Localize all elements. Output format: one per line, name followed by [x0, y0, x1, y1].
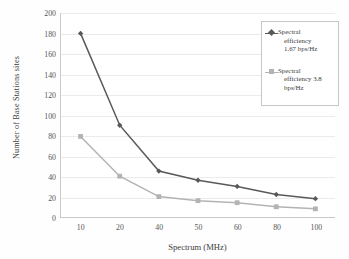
legend-label-1-line1: Spectral — [278, 67, 301, 74]
x-tick-label: 100 — [310, 223, 322, 232]
legend-marker-1 — [269, 69, 274, 74]
y-tick-label: 160 — [44, 50, 56, 59]
y-tick-label: 0 — [52, 214, 56, 223]
data-point-0-0 — [78, 31, 83, 36]
legend-label-1-line2: efficiency 3.8 — [278, 75, 322, 84]
y-tick-label: 40 — [48, 173, 56, 182]
data-point-0-6 — [313, 196, 318, 201]
y-tick-label: 80 — [48, 132, 56, 141]
data-point-1-4 — [235, 200, 240, 205]
legend-label-0-line2: efficiency — [278, 37, 317, 46]
square-marker-icon — [265, 68, 278, 77]
chart-figure: Number of Base Stations sites 0204060801… — [0, 0, 349, 259]
y-axis-title: Number of Base Stations sites — [12, 33, 21, 183]
chart-legend: Spectral efficiency 1.67 bps/Hz Spectral… — [261, 21, 339, 106]
y-tick-label: 120 — [44, 91, 56, 100]
x-tick-label: 50 — [195, 223, 203, 232]
legend-entry-spectral-efficiency-1-67[interactable]: Spectral efficiency 1.67 bps/Hz — [265, 28, 335, 54]
data-point-1-3 — [196, 198, 201, 203]
data-point-1-2 — [156, 194, 161, 199]
data-point-1-0 — [78, 134, 83, 139]
x-axis-title: Spectrum (MHz) — [60, 242, 335, 252]
data-point-1-6 — [313, 206, 318, 211]
legend-label-0: Spectral efficiency 1.67 bps/Hz — [278, 28, 317, 54]
y-tick-label: 140 — [44, 70, 56, 79]
diamond-marker-icon — [265, 29, 278, 38]
data-point-0-3 — [195, 178, 200, 183]
y-tick-label: 20 — [48, 193, 56, 202]
y-tick-label: 60 — [48, 152, 56, 161]
data-point-0-5 — [274, 192, 279, 197]
data-point-1-1 — [117, 174, 122, 179]
x-tick-label: 10 — [77, 223, 85, 232]
x-tick-label: 20 — [116, 223, 124, 232]
legend-marker-0 — [268, 29, 275, 36]
legend-label-0-line1: Spectral — [278, 28, 301, 35]
x-tick-label: 40 — [155, 223, 163, 232]
x-tick-label: 80 — [273, 223, 281, 232]
legend-label-0-line3: 1.67 bps/Hz — [278, 45, 317, 54]
legend-label-1: Spectral efficiency 3.8 bps/Hz — [278, 67, 322, 93]
data-point-0-4 — [234, 184, 239, 189]
legend-entry-spectral-efficiency-3-8[interactable]: Spectral efficiency 3.8 bps/Hz — [265, 67, 335, 93]
data-point-1-5 — [274, 204, 279, 209]
series-line-1 — [81, 136, 316, 208]
y-tick-label: 100 — [44, 111, 56, 120]
y-tick-label: 180 — [44, 29, 56, 38]
y-tick-label: 200 — [44, 9, 56, 18]
x-tick-label: 60 — [234, 223, 242, 232]
legend-label-1-line3: bps/Hz — [278, 84, 322, 93]
